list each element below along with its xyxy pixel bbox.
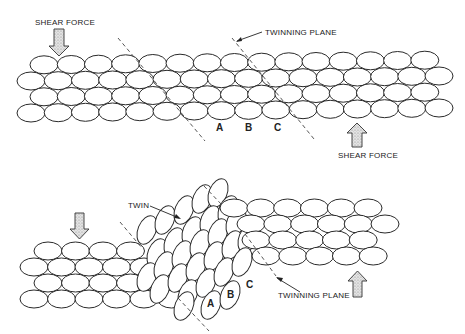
atom	[62, 274, 90, 292]
atom	[398, 99, 426, 117]
atom	[332, 247, 360, 265]
atom	[17, 104, 45, 122]
atom	[166, 54, 194, 72]
atom	[44, 72, 72, 90]
plane-label-a-bottom: A	[207, 298, 214, 309]
atom	[306, 247, 334, 265]
atom	[411, 51, 439, 69]
atom	[89, 242, 117, 260]
atom	[75, 290, 103, 308]
atom	[274, 199, 302, 217]
twinning-plane-label-bottom: TWINNING PLANE	[278, 291, 350, 300]
atom	[57, 88, 85, 106]
atom	[343, 68, 371, 86]
twinning-diagram: SHEAR FORCE TWINNING PLANE A B C SHEAR F…	[0, 0, 465, 334]
atom	[291, 215, 319, 233]
atom	[356, 84, 384, 102]
atom	[153, 102, 181, 120]
atom	[30, 88, 58, 106]
plane-label-c-bottom: C	[246, 279, 253, 290]
atom	[262, 69, 290, 87]
atom	[425, 99, 453, 117]
atom	[279, 247, 307, 265]
atom	[316, 68, 344, 86]
atom	[99, 71, 127, 89]
atom	[84, 55, 112, 73]
bottom-panel: TWIN A B C TWINNING PLANE	[20, 176, 399, 331]
atom	[34, 274, 62, 292]
atom	[75, 258, 103, 276]
atom	[302, 85, 330, 103]
atom	[112, 87, 140, 105]
atom	[34, 242, 62, 260]
atom	[343, 100, 371, 118]
atom	[44, 104, 72, 122]
atom	[264, 215, 292, 233]
atom	[112, 55, 140, 73]
atom	[247, 199, 275, 217]
atom	[235, 101, 263, 119]
atom	[289, 69, 317, 87]
atom	[20, 258, 48, 276]
atom	[384, 52, 412, 70]
top-lattice	[17, 51, 453, 122]
atom	[71, 71, 99, 89]
atom	[316, 100, 344, 118]
atom	[275, 53, 303, 71]
atom	[193, 54, 221, 72]
atom	[139, 87, 167, 105]
atom	[296, 231, 324, 249]
atom	[30, 56, 58, 74]
atom	[329, 84, 357, 102]
atom	[425, 67, 453, 85]
atom	[289, 101, 317, 119]
twinning-plane-label-top: TWINNING PLANE	[265, 28, 337, 37]
atom	[322, 231, 350, 249]
atom	[371, 100, 399, 118]
atom	[398, 67, 426, 85]
plane-label-c-top: C	[274, 122, 281, 133]
atom	[117, 242, 145, 260]
atom	[384, 84, 412, 102]
atom	[237, 215, 265, 233]
atom	[207, 102, 235, 120]
plane-label-a-top: A	[216, 122, 223, 133]
atom	[103, 290, 131, 308]
atom	[329, 52, 357, 70]
shear-force-label-top: SHEAR FORCE	[35, 18, 95, 27]
plane-label-b-top: B	[245, 122, 252, 133]
atom	[317, 215, 345, 233]
shear-force-label-bottom: SHEAR FORCE	[338, 151, 398, 160]
plane-label-b-bottom: B	[227, 289, 234, 300]
atom	[327, 199, 355, 217]
atom	[166, 86, 194, 104]
atom	[220, 199, 248, 217]
atom	[57, 56, 85, 74]
atom	[193, 86, 221, 104]
atom	[153, 70, 181, 88]
twin-label: TWIN	[128, 201, 149, 210]
atom	[371, 215, 399, 233]
atom	[180, 102, 208, 120]
atom	[359, 247, 387, 265]
twin-region	[133, 176, 262, 324]
atom	[207, 70, 235, 88]
atom	[248, 85, 276, 103]
atom	[99, 103, 127, 121]
atom	[48, 290, 76, 308]
atom	[349, 231, 377, 249]
shear-force-arrow-down	[49, 29, 69, 56]
atom	[371, 68, 399, 86]
atom	[235, 69, 263, 87]
atom	[89, 274, 117, 292]
atom	[356, 52, 384, 70]
shear-force-arrow-up	[347, 123, 367, 147]
atom	[139, 55, 167, 73]
atom	[62, 242, 90, 260]
atom	[17, 72, 45, 90]
atom	[300, 199, 328, 217]
atom	[48, 258, 76, 276]
atom	[275, 85, 303, 103]
atom	[126, 103, 154, 121]
atom	[220, 86, 248, 104]
